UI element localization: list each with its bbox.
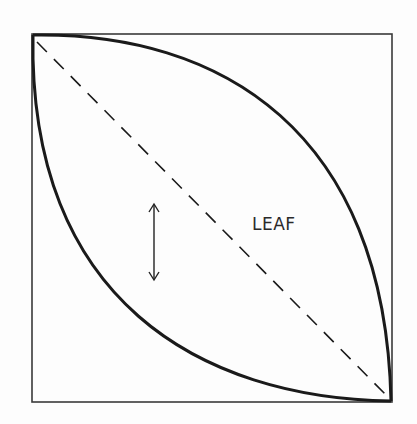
dashed-diagonal bbox=[37, 42, 389, 398]
leaf-diagram bbox=[0, 0, 417, 424]
double-arrow-icon bbox=[149, 204, 159, 280]
leaf-label: LEAF bbox=[252, 214, 296, 234]
